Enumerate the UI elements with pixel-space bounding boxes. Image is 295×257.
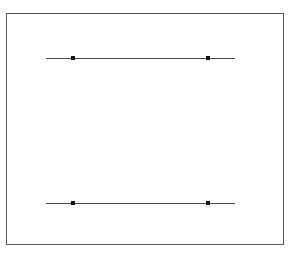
data-point-marker bbox=[206, 201, 210, 205]
data-point-marker bbox=[71, 201, 75, 205]
data-point-marker bbox=[206, 56, 210, 60]
data-point-marker bbox=[71, 56, 75, 60]
figure-canvas bbox=[0, 0, 295, 257]
plot-frame bbox=[6, 13, 284, 245]
